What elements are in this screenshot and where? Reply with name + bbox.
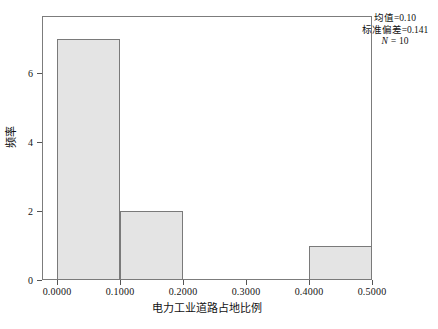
x-tick-label: 0.0000 — [27, 286, 87, 297]
x-tick-label: 0.4000 — [279, 286, 339, 297]
stat-mean: 均值=0.10 — [352, 13, 438, 25]
stat-sample-size: N = 10 — [352, 36, 438, 48]
x-tick-label: 0.2000 — [153, 286, 213, 297]
x-tick-mark — [120, 280, 121, 285]
histogram-bar — [309, 246, 372, 281]
histogram-bar — [120, 211, 183, 280]
y-tick-mark — [37, 211, 42, 212]
x-tick-label: 0.5000 — [342, 286, 402, 297]
stat-n-label: N = — [382, 36, 397, 46]
x-tick-mark — [183, 280, 184, 285]
y-tick-label: 6 — [0, 67, 33, 78]
statistics-annotation: 均值=0.10 标准偏差=0.141 N = 10 — [352, 13, 438, 48]
x-tick-mark — [309, 280, 310, 285]
x-tick-mark — [57, 280, 58, 285]
stat-n-value: 10 — [399, 36, 409, 46]
x-axis-title: 电力工业道路占地比例 — [42, 299, 372, 315]
x-tick-mark — [372, 280, 373, 285]
y-tick-mark — [37, 280, 42, 281]
histogram-figure: 0.0000 0.1000 0.2000 0.3000 0.4000 0.500… — [0, 0, 438, 329]
histogram-bar — [57, 39, 120, 281]
y-tick-label: 0 — [0, 275, 33, 286]
x-tick-label: 0.1000 — [90, 286, 150, 297]
stat-stddev: 标准偏差=0.141 — [352, 25, 438, 37]
x-tick-mark — [246, 280, 247, 285]
y-tick-label: 2 — [0, 206, 33, 217]
y-tick-mark — [37, 73, 42, 74]
y-tick-mark — [37, 142, 42, 143]
y-axis-title: 频率 — [2, 126, 18, 148]
histogram-bars — [42, 16, 372, 280]
x-tick-label: 0.3000 — [216, 286, 276, 297]
